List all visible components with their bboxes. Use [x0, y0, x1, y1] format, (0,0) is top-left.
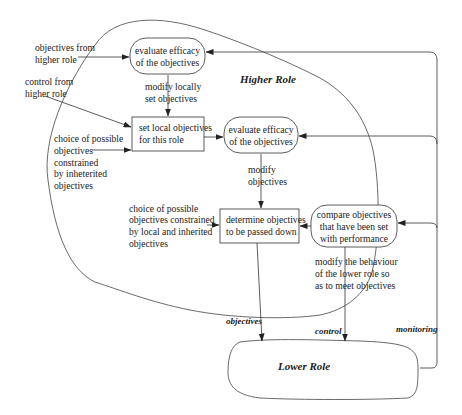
monitoring-feedback-mid [299, 136, 437, 144]
svg-text:choice of possible: choice of possible [129, 203, 198, 214]
svg-text:of the objectives: of the objectives [136, 57, 200, 68]
modify-objectives-label: modify objectives [248, 164, 287, 187]
svg-text:modify locally: modify locally [145, 81, 201, 92]
arrow-objectives-down [257, 243, 262, 341]
svg-text:as to meet objectives: as to meet objectives [315, 280, 395, 291]
svg-text:by local and inherited: by local and inherited [129, 226, 213, 237]
control-edge-label: control [315, 326, 342, 336]
monitoring-feedback-compare [398, 223, 437, 228]
arrow-control-from-higher [45, 96, 131, 127]
svg-text:objectives constrained: objectives constrained [129, 214, 215, 225]
svg-text:objectives: objectives [54, 180, 93, 191]
svg-text:that have been set: that have been set [320, 221, 389, 232]
compare-objectives-text: compare objectives that have been set wi… [317, 209, 392, 244]
svg-text:compare objectives: compare objectives [317, 209, 392, 220]
svg-text:objectives from: objectives from [35, 42, 95, 53]
svg-text:modify: modify [248, 164, 276, 175]
choice-local-inherited-label: choice of possible objectives constraine… [129, 203, 215, 249]
svg-text:set local objectives: set local objectives [139, 122, 212, 133]
modify-behaviour-label: modify the behaviour of the lower role s… [315, 256, 398, 291]
svg-text:modify the behaviour: modify the behaviour [315, 256, 398, 267]
svg-text:objectives: objectives [248, 176, 287, 187]
lower-role-label: Lower Role [277, 360, 330, 372]
svg-text:determine objectives: determine objectives [226, 214, 306, 225]
evaluate-efficacy-mid-text: evaluate efficacy of the objectives [228, 124, 293, 147]
svg-text:objectives: objectives [54, 145, 93, 156]
svg-text:set objectives: set objectives [145, 93, 197, 104]
svg-text:to be passed down: to be passed down [226, 226, 297, 237]
svg-text:constrained: constrained [54, 157, 98, 168]
svg-text:of the objectives: of the objectives [229, 136, 293, 147]
monitoring-edge-label: monitoring [396, 324, 438, 334]
modify-locally-set-objectives-label: modify locally set objectives [145, 81, 201, 104]
higher-role-label: Higher Role [239, 73, 296, 85]
svg-text:evaluate efficacy: evaluate efficacy [135, 45, 200, 56]
choice-inherited-label: choice of possible objectives constraine… [54, 133, 123, 191]
svg-text:objectives: objectives [129, 238, 168, 249]
svg-text:evaluate efficacy: evaluate efficacy [228, 124, 293, 135]
objectives-from-higher-role-label: objectives from higher role [35, 42, 95, 65]
determine-objectives-text: determine objectives to be passed down [226, 214, 306, 237]
evaluate-efficacy-top-node [130, 38, 205, 74]
svg-text:higher role: higher role [25, 88, 67, 99]
svg-text:for this role: for this role [139, 134, 184, 145]
svg-text:higher role: higher role [35, 54, 77, 65]
evaluate-efficacy-top-text: evaluate efficacy of the objectives [135, 45, 200, 68]
svg-text:control from: control from [25, 76, 74, 87]
svg-text:by inheterited: by inheterited [54, 168, 107, 179]
control-from-higher-role-label: control from higher role [25, 76, 74, 99]
evaluate-efficacy-mid-node [224, 117, 298, 153]
svg-text:choice of possible: choice of possible [54, 133, 123, 144]
objectives-edge-label: objectives [226, 316, 262, 326]
svg-text:with performance: with performance [320, 233, 388, 244]
svg-text:of the lower role so: of the lower role so [315, 268, 390, 279]
hierarchical-role-objectives-diagram: evaluate efficacy of the objectives set … [0, 0, 462, 415]
